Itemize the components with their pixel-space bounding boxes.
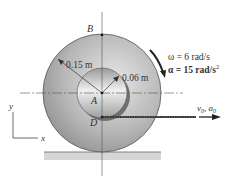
- velocity-arrow-icon: [212, 114, 221, 120]
- axis-y-label: y: [8, 101, 13, 111]
- axis-x-label: x: [40, 133, 45, 143]
- label-d: D: [89, 117, 98, 128]
- rotation-arrowhead-icon: [160, 70, 166, 78]
- point-b: [101, 34, 104, 37]
- a-subscript: 0: [213, 108, 216, 114]
- label-b: B: [87, 23, 93, 34]
- label-a: A: [90, 95, 98, 106]
- point-a: [101, 92, 104, 95]
- outer-radius-label: 0.15 m: [66, 60, 93, 70]
- alpha-label: α = 15 rad/s2: [168, 63, 219, 75]
- spool-diagram: B A D 0.15 m 0.06 m ω = 6 rad/s α = 15 r…: [0, 0, 236, 182]
- ground: [44, 152, 161, 160]
- alpha-exponent: 2: [216, 63, 219, 70]
- cable-motion-label: v0, a0: [197, 103, 216, 114]
- inner-radius-label: 0.06 m: [122, 73, 149, 83]
- alpha-text: α = 15 rad/s: [168, 65, 216, 75]
- coordinate-axes: [13, 112, 38, 138]
- omega-label: ω = 6 rad/s: [168, 52, 210, 62]
